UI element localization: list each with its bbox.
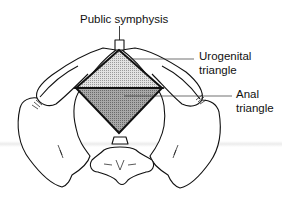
label-anal-triangle: Anal triangle bbox=[236, 87, 274, 115]
label-pubic-symphysis: Public symphysis bbox=[80, 12, 168, 26]
label-line: Anal bbox=[236, 87, 274, 101]
coccyx bbox=[112, 137, 128, 144]
label-line: triangle bbox=[236, 101, 274, 115]
label-urogenital-triangle: Urogenital triangle bbox=[199, 49, 251, 77]
anal-triangle bbox=[76, 88, 162, 133]
label-line: Urogenital bbox=[199, 49, 251, 63]
pubic-symphysis bbox=[115, 40, 124, 50]
label-line: triangle bbox=[199, 63, 251, 77]
